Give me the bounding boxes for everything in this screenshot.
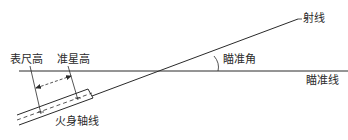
sight-height-extension xyxy=(30,66,41,114)
line-of-fire xyxy=(92,19,298,96)
bore-axis-label: 火身轴线 xyxy=(55,116,99,128)
line-of-fire-label: 射线 xyxy=(303,13,325,25)
aiming-angle-label: 瞄准角 xyxy=(223,54,256,66)
front-sight-height-label: 准星高 xyxy=(57,54,90,66)
sight-height-label: 表尺高 xyxy=(10,54,43,66)
barrel-upper-edge xyxy=(17,89,88,115)
aiming-angle-arc xyxy=(214,56,219,71)
line-of-sight-label: 瞄准线 xyxy=(306,75,339,87)
diagram-canvas xyxy=(0,0,348,140)
dimension-line xyxy=(36,76,71,88)
aiming-diagram: 射线 瞄准角 瞄准线 表尺高 准星高 火身轴线 xyxy=(0,0,348,140)
